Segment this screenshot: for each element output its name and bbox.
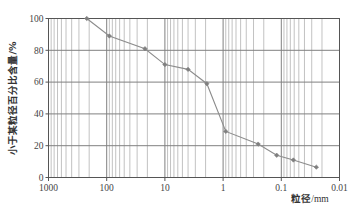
y-axis-title: 小于某粒径百分比含量/% [7,41,18,155]
x-tick-label: 1 [221,183,226,193]
x-axis-title-unit: /mm [311,194,329,204]
y-tick-label: 40 [34,109,44,119]
x-axis-title-main: 粒径 [291,193,311,204]
y-tick-label: 100 [29,14,44,24]
x-tick-label: 0.01 [331,183,348,193]
y-tick-label: 0 [39,173,44,183]
x-axis-title: 粒径/mm [291,193,329,204]
chart-canvas: 020406080100 10001001010.10.01 粒径/mm 小于某… [0,0,363,215]
y-tick-label: 80 [34,46,44,56]
grain-size-distribution-chart: 020406080100 10001001010.10.01 粒径/mm 小于某… [0,0,363,215]
y-tick-label: 60 [34,77,44,87]
x-tick-label: 0.1 [275,183,287,193]
x-tick-label: 100 [100,183,115,193]
x-tick-label: 1000 [39,183,58,193]
y-tick-label: 20 [34,141,44,151]
x-tick-label: 10 [160,183,170,193]
